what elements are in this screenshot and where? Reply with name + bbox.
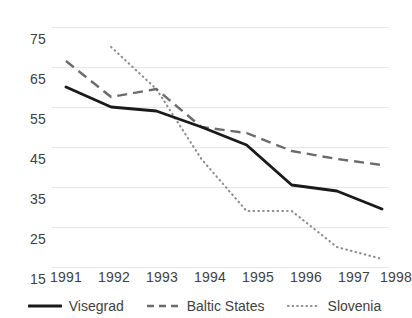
y-axis-tick: 65 [4, 72, 46, 86]
plot-area [52, 12, 389, 270]
y-axis-tick: 25 [4, 232, 46, 246]
x-axis-tick: 1994 [194, 268, 226, 286]
legend-label: Baltic States [187, 299, 265, 313]
legend-label: Slovenia [328, 299, 382, 313]
y-axis-tick: 55 [4, 112, 46, 126]
x-axis-tick: 1991 [50, 268, 82, 286]
series-line-baltic-states [66, 61, 382, 165]
y-axis-tick: 35 [4, 192, 46, 206]
x-axis: 1991 1992 1993 1994 1995 1996 1997 1998 [52, 268, 389, 290]
series-layer [52, 12, 389, 270]
y-axis-tick: 75 [4, 32, 46, 46]
legend-swatch-solid-icon [28, 301, 62, 311]
legend-swatch-dotted-icon [287, 301, 321, 311]
x-axis-tick: 1993 [146, 268, 178, 286]
legend-item-slovenia: Slovenia [287, 299, 382, 313]
y-axis-tick: 15 [4, 272, 46, 286]
series-line-slovenia [111, 47, 382, 259]
x-axis-tick: 1992 [98, 268, 130, 286]
legend-item-visegrad: Visegrad [28, 299, 124, 313]
legend-swatch-dashed-icon [146, 301, 180, 311]
x-axis-tick: 1995 [242, 268, 274, 286]
legend-label: Visegrad [69, 299, 124, 313]
chart-legend: Visegrad Baltic States Slovenia [0, 294, 409, 318]
x-axis-tick: 1997 [338, 268, 370, 286]
y-axis: 75 65 55 45 35 25 15 [0, 12, 46, 270]
series-line-visegrad [66, 87, 382, 209]
legend-item-baltic-states: Baltic States [146, 299, 265, 313]
x-axis-tick: 1998 [380, 268, 412, 286]
y-axis-tick: 45 [4, 152, 46, 166]
x-axis-tick: 1996 [290, 268, 322, 286]
